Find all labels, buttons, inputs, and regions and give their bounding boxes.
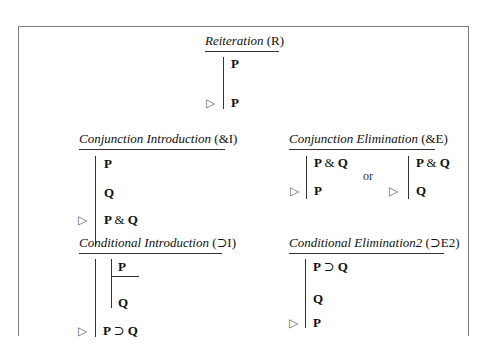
operator: & [324,155,334,170]
rule-title: Conjunction Elimination (&E) [289,131,448,147]
operator: & [114,212,124,227]
formula-left: P [104,212,111,227]
rule-title: Conditional Introduction (⊃I) [79,235,236,251]
rule-name: Conjunction Elimination [289,131,418,146]
rule-name: Conditional Elimination2 [289,235,422,250]
scope-bar [306,156,307,199]
title-underline [205,51,279,52]
conclusion-marker-icon: ▷ [289,316,298,330]
rules-frame [18,26,469,336]
operator: & [426,155,436,170]
subconclusion: Q [118,295,128,310]
rule-title: Conjunction Introduction (&I) [79,131,237,147]
rule-name: Conditional Introduction [79,235,209,250]
title-underline [289,253,444,254]
premise-2: Q [313,291,323,306]
rule-title: Reiteration (R) [205,33,284,49]
conclusion-marker-icon: ▷ [389,184,398,198]
formula-left: P [103,323,110,338]
formula-right: Q [128,212,138,227]
scope-bar [305,259,306,328]
title-underline [79,253,222,254]
conclusion: P [313,315,321,330]
scope-bar-outer [95,259,96,337]
rule-abbr: (⊃E2) [426,235,460,250]
conclusion: P ⊃ Q [103,323,138,338]
or-separator: or [363,169,373,183]
formula-left: P [314,155,321,170]
assumption: P [118,259,126,274]
conclusion-marker-icon: ▷ [78,324,87,338]
operator: ⊃ [323,259,334,274]
formula-right: Q [128,323,138,338]
formula-left: P [313,259,320,274]
premise-2: Q [104,185,114,200]
premise-1: P ⊃ Q [313,259,348,274]
assumption-line [111,276,139,277]
scope-bar [408,156,409,199]
formula-right: Q [440,155,450,170]
conclusion: Q [416,183,426,198]
rule-title: Conditional Elimination2 (⊃E2) [289,235,460,251]
rule-name: Conjunction Introduction [79,131,211,146]
formula-left: P [416,155,423,170]
premise: P & Q [314,155,348,170]
formula-right: Q [338,259,348,274]
rule-abbr: (R) [267,33,284,48]
rule-name: Reiteration [205,33,264,48]
scope-bar-inner [111,259,112,308]
conclusion-marker-icon: ▷ [206,96,215,110]
rule-abbr: (&E) [421,131,448,146]
premise: P [231,56,239,71]
conclusion: P [314,183,322,198]
operator: ⊃ [113,323,124,338]
scope-bar [95,156,96,246]
rule-abbr: (⊃I) [212,235,236,250]
formula-right: Q [338,155,348,170]
premise: P & Q [416,155,450,170]
title-underline [79,149,225,150]
premise-1: P [104,156,112,171]
title-underline [289,149,435,150]
conclusion: P [231,95,239,110]
rule-abbr: (&I) [214,131,237,146]
conclusion: P & Q [104,212,138,227]
conclusion-marker-icon: ▷ [78,213,87,227]
conclusion-marker-icon: ▷ [290,184,299,198]
scope-bar [223,57,224,109]
